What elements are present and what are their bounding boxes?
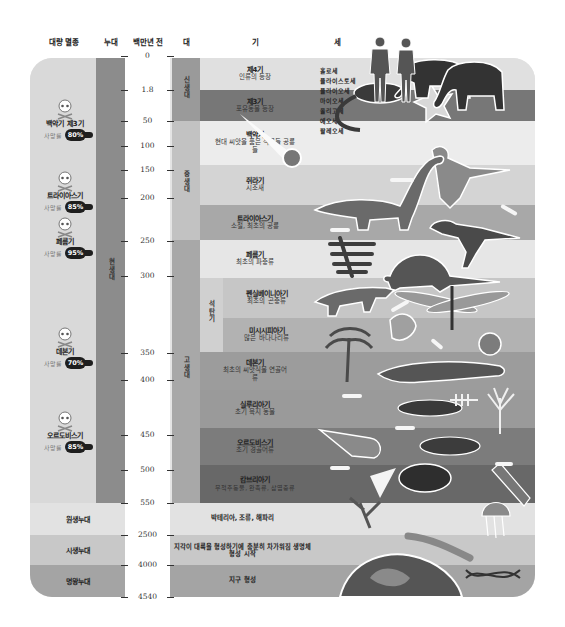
header-period: 기 [200, 36, 310, 47]
tick-400: 400 [125, 375, 170, 384]
rate-label: 사망률 [44, 443, 62, 452]
illustrations-layer [30, 58, 535, 597]
archaeopteryx-icon [432, 147, 510, 208]
skull-crossbones-icon [55, 170, 75, 192]
tick-350: 350 [125, 348, 170, 357]
meteor-icon [240, 114, 301, 167]
jellyfish-icon [482, 503, 510, 539]
theropod-icon [430, 221, 520, 268]
mammoth-icon [428, 60, 508, 116]
reptile-icon [315, 288, 394, 316]
extinction-devonian: 데본기 사망률70% [32, 326, 98, 369]
rate-label: 사망률 [44, 203, 62, 212]
rate-label: 사망률 [44, 249, 62, 258]
rate-label: 사망률 [44, 359, 62, 368]
extinction-name: 오르도비스기 [32, 432, 98, 440]
header-million-years: 백만년 전 [126, 36, 170, 47]
rate-badge: 70% [65, 357, 87, 369]
sea-scorpion-icon [398, 400, 462, 416]
rate-badge: 85% [65, 201, 87, 213]
skull-crossbones-icon [55, 216, 75, 238]
header-eon: 누대 [96, 36, 126, 47]
segmented-worm-icon [408, 536, 470, 558]
tick-500: 500 [125, 465, 170, 474]
tick-200: 200 [125, 193, 170, 202]
nautiloid-icon [320, 430, 380, 458]
extinction-name: 페름기 [32, 238, 98, 246]
dna-icon [466, 570, 520, 578]
crinoid-icon [390, 314, 416, 340]
header-era: 대 [172, 36, 200, 47]
earth-icon [340, 554, 462, 597]
rate-label: 사망률 [44, 131, 62, 140]
tick-150: 150 [125, 165, 170, 174]
extinction-name: 데본기 [32, 348, 98, 356]
tree-fern-icon [326, 329, 372, 383]
tick-550: 550 [125, 498, 170, 507]
tick-0: 0 [125, 51, 170, 60]
tick-300: 300 [125, 271, 170, 280]
extinction-ordovician: 오르도비스기 사망률85% [32, 410, 98, 453]
ammonite-shell-icon [479, 333, 501, 355]
rate-badge: 85% [65, 441, 87, 453]
coral-icon [488, 388, 514, 434]
trilobite-icon [399, 464, 451, 492]
extinction-triassic: 트라이아스기 사망률85% [32, 170, 98, 213]
tick-2500: 2500 [125, 530, 170, 539]
algae-icon [350, 498, 380, 528]
tick-1-8: 1.8 [125, 85, 170, 94]
extinction-cretaceous-tertiary: 백악기 제3기 사망률80% [32, 98, 98, 141]
tick-250: 250 [125, 236, 170, 245]
cycad-icon [330, 238, 374, 276]
jawless-fish-icon [420, 437, 480, 455]
tick-100: 100 [125, 141, 170, 150]
extinction-name: 트라이아스기 [32, 192, 98, 200]
amphibian-icon [378, 362, 504, 383]
tick-4540: 4540 [125, 592, 170, 601]
skull-crossbones-icon [55, 410, 75, 432]
tick-50: 50 [125, 116, 170, 125]
rate-badge: 95% [65, 247, 87, 259]
dimetrodon-icon [384, 255, 500, 292]
skull-crossbones-icon [55, 326, 75, 348]
extinction-permian: 페름기 사망률95% [32, 216, 98, 259]
tick-450: 450 [125, 430, 170, 439]
sauropod-icon [315, 156, 444, 230]
tooth-icon [370, 468, 396, 498]
skull-crossbones-icon [55, 98, 75, 120]
rate-badge: 80% [65, 129, 87, 141]
timeline-panel: 현생대 석탄기 신생대 중생대 고생대 제4기 인류의 등장 제3기 포유동물 … [30, 58, 535, 597]
header-epoch: 세 [322, 36, 352, 47]
header-mass-extinction: 대량 멸종 [38, 36, 90, 47]
extinction-name: 백악기 제3기 [32, 120, 98, 128]
worm-icon [492, 463, 530, 506]
tick-4000: 4000 [125, 560, 170, 569]
